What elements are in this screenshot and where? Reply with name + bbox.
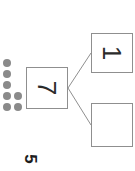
whole-box-value: 7 bbox=[27, 68, 67, 108]
part-box-bottom-value bbox=[91, 105, 133, 145]
tally-dot bbox=[3, 81, 11, 89]
tally-dot bbox=[14, 103, 22, 111]
worksheet-page: 7 1 5 bbox=[0, 0, 135, 171]
tally-dot bbox=[3, 59, 11, 67]
part-box-top[interactable]: 1 bbox=[91, 33, 133, 73]
connector-line-bottom bbox=[68, 88, 91, 125]
part-box-bottom[interactable] bbox=[91, 103, 133, 147]
tally-dot bbox=[3, 103, 11, 111]
connector-line-top bbox=[68, 53, 91, 88]
whole-box[interactable]: 7 bbox=[26, 67, 68, 109]
tally-dot bbox=[3, 92, 11, 100]
problem-number: 5 bbox=[20, 148, 42, 170]
part-box-top-value: 1 bbox=[93, 33, 131, 73]
dot-tally-group bbox=[2, 58, 26, 112]
tally-dot bbox=[14, 92, 22, 100]
tally-dot bbox=[3, 70, 11, 78]
